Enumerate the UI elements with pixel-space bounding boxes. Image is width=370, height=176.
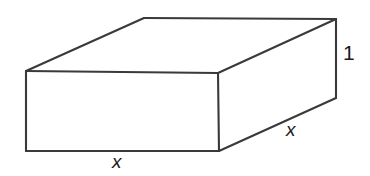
- box-drawing: [0, 0, 370, 176]
- front-face: [26, 71, 219, 151]
- box-figure: 1 x x: [0, 0, 370, 176]
- height-dimension-label: 1: [343, 42, 355, 63]
- back-top-edge: [144, 18, 336, 19]
- width-dimension-label: x: [112, 152, 122, 171]
- depth-dimension-label: x: [286, 120, 296, 139]
- front-right-edge: [218, 73, 219, 151]
